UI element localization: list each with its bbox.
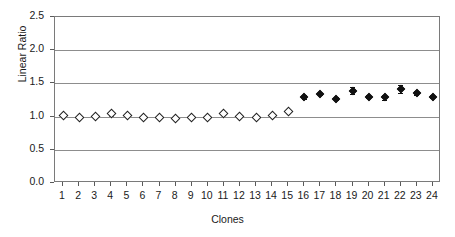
x-tick-mark	[159, 182, 160, 186]
open-diamond-marker	[235, 112, 245, 122]
open-diamond-marker	[203, 112, 213, 122]
open-diamond-marker	[139, 112, 149, 122]
x-tick-mark	[416, 182, 417, 186]
plot-area	[54, 16, 440, 182]
y-tick-label: 0.5	[4, 142, 44, 154]
x-tick-mark	[207, 182, 208, 186]
x-tick-mark	[400, 182, 401, 186]
x-tick-mark	[271, 182, 272, 186]
x-tick-mark	[384, 182, 385, 186]
y-axis-label: Linear Ratio	[16, 0, 32, 116]
open-diamond-marker	[251, 112, 261, 122]
x-tick-mark	[175, 182, 176, 186]
open-diamond-marker	[155, 112, 165, 122]
open-diamond-marker	[122, 111, 132, 121]
x-tick-mark	[303, 182, 304, 186]
x-tick-mark	[142, 182, 143, 186]
x-tick-mark	[94, 182, 95, 186]
x-tick-mark	[352, 182, 353, 186]
filled-diamond-marker	[364, 92, 372, 100]
filled-diamond-marker	[397, 85, 405, 93]
x-tick-mark	[255, 182, 256, 186]
gridline	[55, 83, 439, 84]
x-tick-mark	[319, 182, 320, 186]
open-diamond-marker	[267, 110, 277, 120]
error-bar-cap	[398, 93, 403, 94]
x-tick-mark	[78, 182, 79, 186]
x-tick-mark	[368, 182, 369, 186]
open-diamond-marker	[171, 114, 181, 124]
x-tick-mark	[191, 182, 192, 186]
open-diamond-marker	[74, 113, 84, 123]
open-diamond-marker	[283, 106, 293, 116]
chart-figure: Linear Ratio Clones 0.00.51.01.52.02.5 1…	[0, 0, 455, 237]
x-tick-mark	[223, 182, 224, 186]
x-axis-label: Clones	[0, 213, 455, 225]
x-tick-mark	[239, 182, 240, 186]
x-tick-mark	[62, 182, 63, 186]
x-tick-label: 24	[422, 189, 442, 201]
filled-diamond-marker	[316, 90, 324, 98]
gridline	[55, 150, 439, 151]
filled-diamond-marker	[429, 92, 437, 100]
x-tick-mark	[335, 182, 336, 186]
open-diamond-marker	[90, 112, 100, 122]
filled-diamond-marker	[332, 94, 340, 102]
y-tick-label: 0.0	[4, 175, 44, 187]
x-tick-mark	[432, 182, 433, 186]
x-tick-mark	[126, 182, 127, 186]
open-diamond-marker	[58, 110, 68, 120]
x-tick-mark	[110, 182, 111, 186]
gridline	[55, 50, 439, 51]
x-tick-mark	[287, 182, 288, 186]
y-tick-mark	[50, 182, 54, 183]
open-diamond-marker	[187, 113, 197, 123]
